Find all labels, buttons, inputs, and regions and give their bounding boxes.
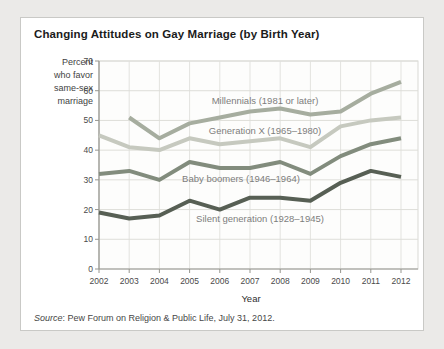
y-axis-title-line3: same-sex [54, 83, 94, 93]
x-tick-label: 2011 [362, 276, 381, 286]
series-label-genx: Generation X (1965–1980) [209, 125, 322, 136]
x-tick-label: 2003 [120, 276, 139, 286]
y-tick-label: 0 [88, 264, 93, 274]
y-tick-label: 10 [84, 234, 94, 244]
x-tick-label: 2010 [331, 276, 350, 286]
y-axis-title-line4: marriage [57, 96, 93, 106]
series-label-silent: Silent generation (1928–1945) [196, 213, 324, 224]
series-label-boomers: Baby boomers (1946–1964) [182, 173, 300, 184]
line-chart: 0102030405060702002200320042005200620072… [21, 18, 425, 332]
source-text: : Pew Forum on Religion & Public Life, J… [63, 313, 275, 323]
source-citation: Source: Pew Forum on Religion & Public L… [34, 313, 275, 323]
y-tick-label: 50 [84, 115, 94, 125]
y-axis-title-line2: who favor [53, 70, 93, 80]
x-tick-label: 2008 [271, 276, 290, 286]
y-axis-title-line1: Percent [62, 57, 94, 67]
x-tick-label: 2005 [180, 276, 199, 286]
x-tick-label: 2012 [392, 276, 411, 286]
x-tick-label: 2006 [210, 276, 229, 286]
y-tick-label: 30 [84, 175, 94, 185]
x-tick-label: 2002 [90, 276, 109, 286]
x-tick-label: 2009 [301, 276, 320, 286]
source-label: Source [34, 313, 63, 323]
series-label-millennials: Millennials (1981 or later) [212, 95, 319, 106]
y-tick-label: 20 [84, 205, 94, 215]
figure-panel: Changing Attitudes on Gay Marriage (by B… [20, 17, 424, 331]
x-tick-label: 2004 [150, 276, 169, 286]
x-tick-label: 2007 [241, 276, 260, 286]
y-tick-label: 40 [84, 145, 94, 155]
x-axis-title: Year [241, 293, 260, 304]
